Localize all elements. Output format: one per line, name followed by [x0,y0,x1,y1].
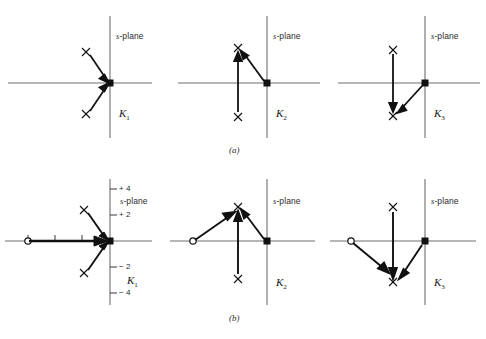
arrow-from-origin [404,245,422,272]
arrowhead-upper [100,75,110,84]
y-tick-label-plus2: + 2 [119,211,130,219]
breakaway-point-marker [422,238,429,245]
pole-upper-x-icon [80,206,88,214]
gain-sub-a2: 2 [283,114,287,122]
s-plane-rest: -plane [276,196,300,206]
breakaway-point-marker [422,80,429,87]
arrowhead-vertical [389,268,397,279]
panel-b1: −6 −4 −2 0 + 4 + 2 − 2 − 4 s-plane K1 [0,175,162,315]
s-plane-rest: -plane [119,31,143,41]
y-tick-label-minus4: − 4 [119,289,130,297]
y-tick-label-minus2: − 2 [119,263,130,271]
panel-b3: s-plane K3 [318,175,486,315]
s-plane-label-a2: s-plane [273,32,301,41]
gain-sub-a1: 1 [126,114,130,122]
s-plane-label-b3: s-plane [431,197,459,206]
pole-upper-x-icon [389,203,397,211]
pole-upper-x-icon [82,48,90,56]
arrowhead-lower [100,83,110,92]
panel-b3-plot [318,175,486,315]
arrowhead-vertical [389,103,397,112]
pole-lower-x-icon [234,275,242,283]
gain-label-b3: K3 [434,277,445,291]
s-plane-rest: -plane [434,31,458,41]
gain-sub-b1: 1 [134,281,138,289]
arrow-from-origin [245,55,264,81]
s-plane-label-b1: s-plane [120,197,148,206]
gain-sub-a3: 3 [441,114,445,122]
arrowhead-diagonal [398,105,407,113]
panel-a2: s-plane K2 [160,8,322,143]
locus-arrows-a2 [234,51,264,113]
panel-a3-plot [318,8,486,143]
gain-label-a3: K3 [434,108,445,122]
gain-sub-b2: 2 [283,283,287,291]
locus-arrows-b1 [29,213,109,270]
s-plane-label-b2: s-plane [273,197,301,206]
pole-lower-x-icon [234,113,242,121]
gain-label-b1: K1 [127,275,138,289]
gain-label-a1: K1 [119,108,130,122]
figure-root-locus-sketches: s-plane K1 [0,0,486,339]
gain-label-a2: K2 [276,108,287,122]
row-label-b: (b) [229,313,240,323]
panel-a1-plot [0,8,162,143]
pole-lower-x-icon [80,269,88,277]
arrow-from-origin [246,215,264,239]
s-plane-rest: -plane [123,196,147,206]
gain-sub-b3: 3 [441,283,445,291]
s-plane-rest: -plane [434,196,458,206]
panel-b2: s-plane K2 [160,175,322,315]
pole-upper-x-icon [389,46,397,54]
arrow-from-lower-pole [88,247,104,270]
arrow-from-zero [195,217,228,240]
s-plane-label-a1: s-plane [116,32,144,41]
panel-a3: s-plane K3 [318,8,486,143]
arrowhead-from-origin [399,269,409,279]
arrow-from-zero [353,243,382,267]
arrow-from-upper-pole [88,213,104,236]
row-label-a: (a) [229,145,240,155]
panel-a1: s-plane K1 [0,8,162,143]
panel-a2-plot [160,8,322,143]
pole-lower-x-icon [82,110,90,118]
y-tick-label-plus4: + 4 [119,185,130,193]
s-plane-label-a3: s-plane [431,32,459,41]
gain-label-b2: K2 [276,277,287,291]
s-plane-rest: -plane [276,31,300,41]
locus-arrows-b3 [353,212,422,279]
arrow-from-origin [402,86,422,108]
